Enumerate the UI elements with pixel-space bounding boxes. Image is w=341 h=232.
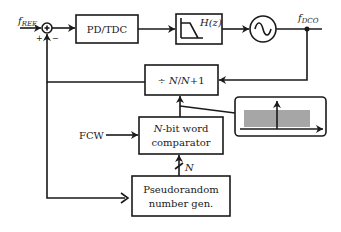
- dco-block: [250, 16, 276, 42]
- comparator-label-line2: comparator: [151, 137, 210, 148]
- filter-label: H(z): [199, 17, 222, 28]
- bus-width-label: N: [184, 162, 195, 173]
- fdco-label: fDCO: [297, 12, 319, 25]
- comparator-label-line1: N-bit word: [153, 123, 209, 134]
- plus-sign: +: [36, 34, 43, 43]
- inset-pointer-line: [180, 106, 235, 113]
- prng-label-line1: Pseudorandom: [143, 184, 219, 195]
- divider-block: ÷ N/N+1: [145, 65, 218, 95]
- prng-label-line2: number gen.: [149, 198, 214, 209]
- fcw-label: FCW: [79, 130, 105, 141]
- block-diagram: fREF + − PD/TDC H(z) fDCO ÷ N/N+1: [0, 0, 341, 232]
- pd-tdc-block: PD/TDC: [76, 15, 138, 43]
- distribution-inset: [235, 97, 326, 136]
- divider-label: ÷ N/N+1: [157, 75, 204, 86]
- prng-block: Pseudorandom number gen.: [132, 176, 230, 216]
- summing-junction: [42, 23, 52, 33]
- pd-tdc-label: PD/TDC: [87, 24, 128, 35]
- loop-filter-block: H(z): [176, 14, 222, 44]
- minus-sign: −: [52, 34, 59, 43]
- fref-label: fREF: [17, 15, 38, 28]
- comparator-block: N-bit word comparator: [139, 117, 223, 154]
